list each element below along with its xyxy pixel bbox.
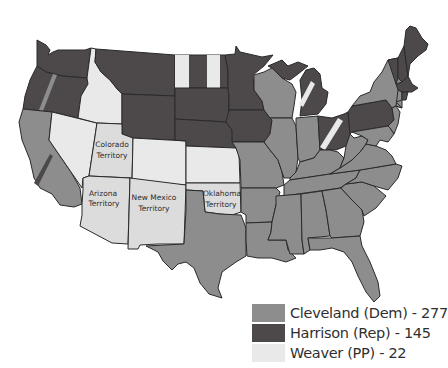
label-arizona-territory-line2: Territory	[87, 199, 120, 208]
legend: Cleveland (Dem) - 277 Harrison (Rep) - 1…	[252, 303, 448, 363]
state-kansas	[186, 146, 240, 183]
label-colorado-territory-line2: Territory	[95, 151, 128, 160]
label-oklahoma-territory-line1: Oklahoma	[203, 189, 241, 198]
territory-arizona	[80, 176, 130, 244]
state-north-dakota-stripe-2	[207, 55, 220, 88]
state-south-dakota	[175, 88, 229, 122]
state-wyoming	[122, 94, 175, 140]
state-rhode-island	[402, 92, 408, 100]
legend-swatch-rep	[252, 324, 285, 342]
legend-label-harrison: Harrison (Rep) - 145	[290, 325, 431, 341]
label-colorado-territory-line1: Colorado	[95, 140, 129, 149]
state-florida	[308, 236, 380, 302]
legend-swatch-pp	[252, 344, 285, 362]
territory-new-mexico	[128, 178, 186, 249]
label-arizona-territory-line1: Arizona	[89, 189, 117, 198]
legend-item-cleveland: Cleveland (Dem) - 277	[252, 303, 448, 323]
legend-label-weaver: Weaver (PP) - 22	[290, 345, 406, 361]
legend-item-weaver: Weaver (PP) - 22	[252, 343, 448, 363]
legend-swatch-dem	[252, 304, 285, 322]
label-new-mexico-territory-line1: New Mexico	[132, 193, 177, 202]
state-maine	[404, 26, 428, 76]
state-iowa	[226, 110, 272, 142]
legend-label-cleveland: Cleveland (Dem) - 277	[290, 305, 448, 321]
legend-item-harrison: Harrison (Rep) - 145	[252, 323, 448, 343]
state-michigan	[300, 68, 328, 116]
state-colorado	[132, 138, 186, 185]
label-oklahoma-territory-line2: Territory	[204, 200, 237, 209]
state-north-dakota-stripe-1	[175, 55, 189, 88]
label-new-mexico-territory-line2: Territory	[137, 204, 170, 213]
